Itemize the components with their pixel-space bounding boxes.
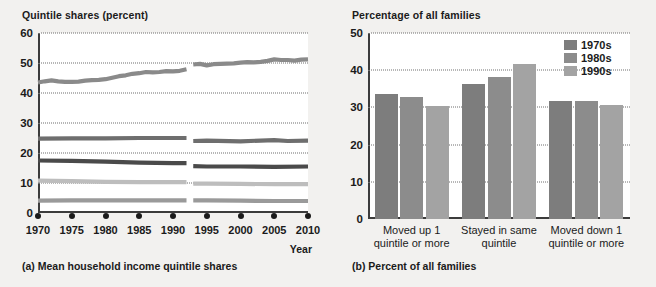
x-tick-dot (170, 213, 176, 219)
legend-label: 1980s (581, 52, 612, 64)
x-tick-label: 2005 (262, 224, 286, 236)
bar-1980s-group-2 (488, 77, 511, 219)
category-label: Stayed in samequintile (461, 224, 537, 250)
y-tick-label: 50 (350, 27, 368, 39)
x-tick-dot (204, 213, 210, 219)
x-tick-label: 1980 (93, 224, 117, 236)
legend-item-1990s: 1990s (564, 65, 612, 77)
y-tick-label: 0 (357, 213, 368, 225)
panel-a-x-axis-label: Year (290, 243, 312, 255)
legend-swatch-icon (564, 53, 577, 63)
panel-a-plot-area: 0102030405060 (38, 33, 308, 213)
line-series-third-quintile (193, 166, 308, 167)
x-tick-label: 1985 (127, 224, 151, 236)
x-tick-dot (69, 213, 75, 219)
line-series-fourth-quintile (38, 138, 187, 139)
category-label-line: Moved up 1 (374, 224, 450, 237)
bar-1970s-group-2 (462, 84, 485, 219)
y-tick-label: 50 (20, 57, 38, 69)
x-tick-dot (35, 213, 41, 219)
x-tick-label: 2000 (228, 224, 252, 236)
bar-1980s-group-1 (400, 97, 423, 219)
y-tick-label: 60 (20, 27, 38, 39)
bar-1990s-group-2 (513, 64, 536, 219)
line-series-second-quintile (193, 184, 308, 185)
y-tick-label: 20 (20, 147, 38, 159)
line-series-highest-quintile (38, 69, 187, 82)
panel-b-plot-area: 01020304050 1970s1980s1990s (368, 33, 630, 219)
x-tick-dot (136, 213, 142, 219)
category-label-line: Moved down 1 (548, 224, 624, 237)
panel-b-bar-chart: Percentage of all families 01020304050 1… (330, 0, 656, 287)
y-tick-label: 20 (350, 139, 368, 151)
y-tick-label: 40 (350, 64, 368, 76)
gridline (368, 33, 630, 34)
panel-b-axis-title: Percentage of all families (352, 9, 481, 21)
category-label-line: quintile or more (548, 237, 624, 250)
x-tick-dot (305, 213, 311, 219)
category-label-line: quintile or more (374, 237, 450, 250)
line-series-lowest-quintile (193, 200, 308, 201)
panel-a-line-chart: Quintile shares (percent) 0102030405060 … (0, 0, 330, 287)
category-label: Moved up 1quintile or more (374, 224, 450, 250)
line-series-fourth-quintile (193, 140, 308, 141)
x-tick-dot (103, 213, 109, 219)
legend-swatch-icon (564, 66, 577, 76)
legend-label: 1990s (581, 65, 612, 77)
category-label: Moved down 1quintile or more (548, 224, 624, 250)
bar-1970s-group-1 (375, 94, 398, 219)
line-series-highest-quintile (193, 59, 308, 65)
line-series-third-quintile (38, 161, 187, 164)
legend-item-1980s: 1980s (564, 52, 612, 64)
legend-label: 1970s (581, 39, 612, 51)
bar-1970s-group-3 (549, 101, 572, 219)
panel-a-axis-title: Quintile shares (percent) (22, 9, 148, 21)
y-tick-label: 30 (350, 101, 368, 113)
y-tick-label: 10 (350, 176, 368, 188)
figure-container: Quintile shares (percent) 0102030405060 … (0, 0, 656, 287)
x-tick-dot (271, 213, 277, 219)
x-tick-dot (238, 213, 244, 219)
bar-1990s-group-3 (600, 105, 623, 219)
line-series-second-quintile (38, 181, 187, 183)
y-tick-label: 40 (20, 87, 38, 99)
panel-a-caption: (a) Mean household income quintile share… (22, 260, 237, 272)
x-tick-label: 1995 (195, 224, 219, 236)
legend-item-1970s: 1970s (564, 39, 612, 51)
x-tick-label: 1970 (26, 224, 50, 236)
panel-b-legend: 1970s1980s1990s (564, 39, 612, 77)
panel-a-series-lines (38, 33, 308, 213)
x-tick-label: 2010 (296, 224, 320, 236)
panel-b-y-axis (368, 33, 370, 219)
bar-1980s-group-3 (575, 101, 598, 219)
x-tick-label: 1975 (60, 224, 84, 236)
bar-1990s-group-1 (426, 106, 449, 219)
category-label-line: Stayed in same (461, 224, 537, 237)
panel-b-caption: (b) Percent of all families (352, 260, 476, 272)
legend-swatch-icon (564, 40, 577, 50)
x-tick-label: 1990 (161, 224, 185, 236)
category-label-line: quintile (461, 237, 537, 250)
y-tick-label: 30 (20, 117, 38, 129)
y-tick-label: 10 (20, 177, 38, 189)
